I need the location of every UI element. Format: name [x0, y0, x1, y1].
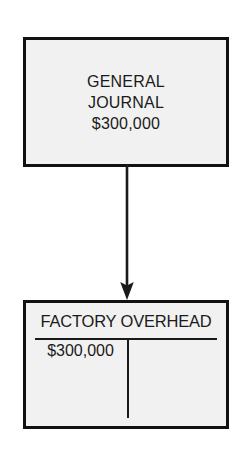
general-journal-box: GENERAL JOURNAL $300,000	[23, 37, 229, 167]
general-journal-line-1: GENERAL	[87, 71, 165, 92]
general-journal-line-2: JOURNAL	[88, 92, 164, 113]
t-account-title: FACTORY OVERHEAD	[26, 312, 226, 331]
t-account-debit-amount: $300,000	[36, 342, 125, 360]
t-account-vertical-divider	[127, 338, 129, 418]
posting-arrow-icon	[112, 164, 142, 302]
general-journal-amount: $300,000	[92, 113, 160, 134]
t-account-inner: FACTORY OVERHEAD $300,000	[26, 303, 226, 426]
diagram-canvas: GENERAL JOURNAL $300,000 FACTORY OVERHEA…	[0, 0, 252, 451]
factory-overhead-t-account: FACTORY OVERHEAD $300,000	[23, 300, 229, 429]
t-account-horizontal-rule	[35, 338, 217, 340]
